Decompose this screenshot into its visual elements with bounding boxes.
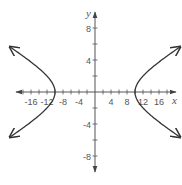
x-tick-label: 4: [108, 97, 113, 107]
x-axis-label: x: [171, 94, 177, 106]
y-axis-label: y: [85, 7, 91, 19]
x-tick-label: 8: [124, 97, 129, 107]
y-tick-label: -8: [83, 152, 91, 162]
y-tick-label: 8: [86, 24, 91, 34]
x-tick-label: -8: [59, 97, 67, 107]
y-tick-label: -4: [83, 120, 91, 130]
x-tick-label: 16: [154, 97, 164, 107]
x-tick-label: -4: [75, 97, 83, 107]
hyperbola-graph: -16-12-8-4481216 84-4-8 x y: [0, 0, 182, 185]
y-tick-label: 4: [86, 56, 91, 66]
x-axis: -16-12-8-4481216: [16, 90, 176, 108]
x-tick-label: -16: [24, 97, 37, 107]
x-tick-label: 12: [138, 97, 148, 107]
